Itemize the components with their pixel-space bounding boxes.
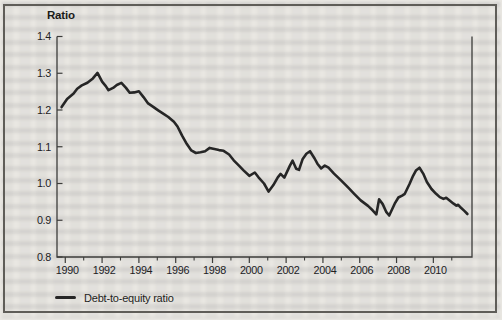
- y-tick-label: 1.0: [37, 177, 51, 189]
- y-tick-label: 1.1: [37, 141, 51, 153]
- debt-to-equity-line-chart: 0.80.91.01.11.21.31.41990199219941996199…: [0, 0, 502, 320]
- x-tick-label: 2006: [350, 264, 373, 276]
- chart-legend: Debt-to-equity ratio: [55, 291, 174, 304]
- x-tick-label: 1994: [129, 264, 152, 276]
- x-tick-label: 2004: [314, 264, 337, 276]
- legend-series-label: Debt-to-equity ratio: [84, 292, 174, 304]
- scanned-figure-page: Ratio 0.80.91.01.11.21.31.41990199219941…: [0, 0, 502, 320]
- y-tick-label: 1.3: [37, 67, 51, 79]
- x-tick-label: 2000: [240, 264, 263, 276]
- x-tick-label: 1996: [166, 264, 189, 276]
- x-tick-label: 1992: [93, 264, 116, 276]
- x-tick-label: 1990: [56, 264, 79, 276]
- y-tick-label: 0.8: [37, 251, 51, 263]
- x-tick-label: 1998: [203, 264, 226, 276]
- debt-to-equity-series-line: [62, 73, 468, 216]
- x-tick-label: 2010: [424, 264, 447, 276]
- y-tick-label: 0.9: [37, 214, 51, 226]
- x-tick-label: 2008: [387, 264, 410, 276]
- y-tick-label: 1.2: [37, 104, 51, 116]
- x-tick-label: 2002: [277, 264, 300, 276]
- y-tick-label: 1.4: [37, 30, 51, 42]
- legend-line-swatch: [55, 296, 76, 299]
